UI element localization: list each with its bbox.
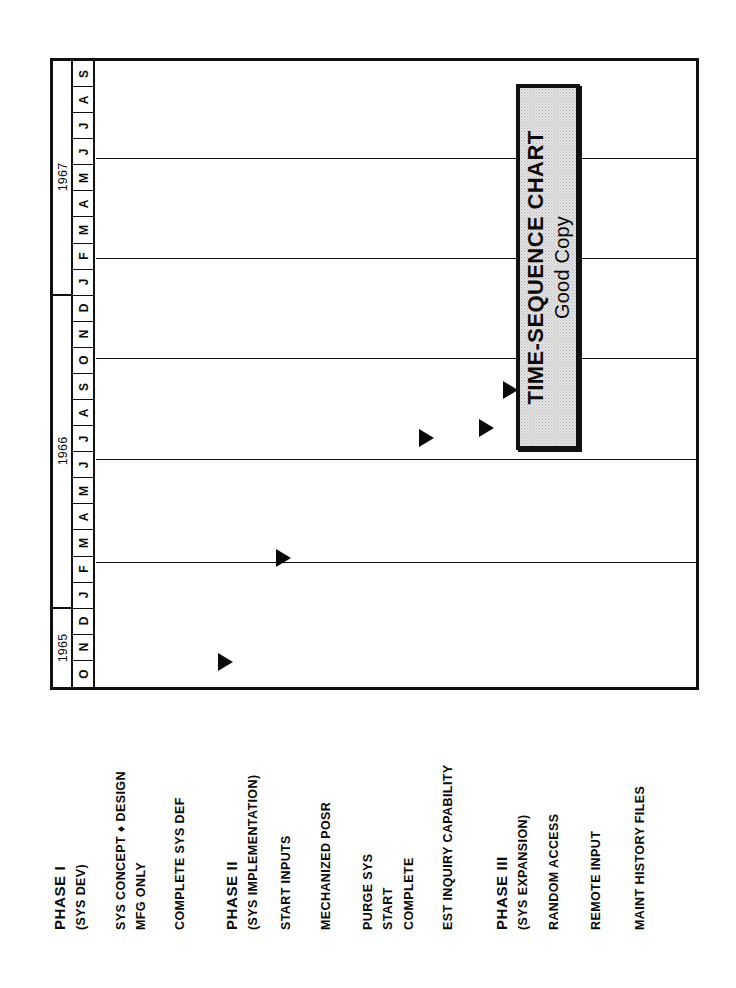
month-cell: N xyxy=(73,635,95,661)
task-label-sys-concept-design: SYS CONCEPT ♦ DESIGN xyxy=(114,771,128,930)
task-label-complete: COMPLETE xyxy=(402,857,416,930)
month-label: M xyxy=(77,173,91,183)
month-cell: S xyxy=(73,374,95,400)
month-label: J xyxy=(77,122,91,129)
month-label: F xyxy=(77,565,91,572)
month-cell: F xyxy=(73,557,95,583)
year-cell-1967: 1967 xyxy=(53,61,73,296)
year-label: 1967 xyxy=(56,163,70,192)
month-label: M xyxy=(77,225,91,235)
year-label: 1966 xyxy=(56,437,70,466)
month-label: N xyxy=(77,330,91,339)
row-separator-line xyxy=(96,562,697,563)
month-label: D xyxy=(77,617,91,626)
month-cell: A xyxy=(73,191,95,217)
month-cell: M xyxy=(73,165,95,191)
month-label: F xyxy=(77,252,91,259)
month-cell: O xyxy=(73,661,95,687)
chart-title: TIME-SEQUENCE CHART xyxy=(523,130,549,404)
task-label-random-access: RANDOM ACCESS xyxy=(547,813,561,930)
milestone-mechanized-posr-marker xyxy=(479,419,494,437)
task-label-phase-iii: PHASE III xyxy=(493,856,510,930)
month-cell: N xyxy=(73,322,95,348)
month-cell: J xyxy=(73,139,95,165)
month-label: D xyxy=(77,304,91,313)
row-separator-line xyxy=(96,459,697,460)
month-label: O xyxy=(77,669,91,678)
month-cell: A xyxy=(73,87,95,113)
task-label-phase-i: PHASE I xyxy=(51,866,68,930)
task-label-est-inquiry-capability: EST INQUIRY CAPABILITY xyxy=(441,764,455,930)
month-cell: A xyxy=(73,400,95,426)
month-label: J xyxy=(77,461,91,468)
year-cell-1966: 1966 xyxy=(53,296,73,609)
month-cell: M xyxy=(73,218,95,244)
month-axis: SAJJMAMFJDNOSAJJMAMFJDNO xyxy=(73,61,95,687)
year-label: 1965 xyxy=(56,634,70,663)
month-label: J xyxy=(77,279,91,286)
row-separator-line xyxy=(96,158,697,159)
year-axis: 196719661965 xyxy=(53,61,73,687)
task-label-start: START xyxy=(381,887,395,930)
month-label: O xyxy=(77,356,91,365)
month-cell: J xyxy=(73,426,95,452)
task-label-start-inputs: START INPUTS xyxy=(279,835,293,930)
month-cell: S xyxy=(73,61,95,87)
task-label-sys-implementation: (SYS IMPLEMENTATION) xyxy=(246,775,260,930)
plot-area xyxy=(96,61,697,687)
month-cell: J xyxy=(73,583,95,609)
month-label: J xyxy=(77,592,91,599)
chart-title-plate: TIME-SEQUENCE CHART Good Copy xyxy=(516,84,580,450)
task-label-sys-expansion: (SYS EXPANSION) xyxy=(516,814,530,930)
row-separator-line xyxy=(96,358,697,359)
month-label: J xyxy=(77,435,91,442)
month-label: N xyxy=(77,643,91,652)
month-cell: J xyxy=(73,270,95,296)
task-label-mfg-only: MFG ONLY xyxy=(134,862,148,930)
month-cell: J xyxy=(73,113,95,139)
month-label: M xyxy=(77,538,91,548)
task-label-maint-history-files: MAINT HISTORY FILES xyxy=(633,786,647,930)
year-cell-1965: 1965 xyxy=(53,609,73,687)
month-label: S xyxy=(77,70,91,78)
milestone-start-inputs-marker xyxy=(419,429,434,447)
month-label: A xyxy=(77,513,91,522)
month-label: A xyxy=(77,200,91,209)
month-cell: M xyxy=(73,478,95,504)
chart-subtitle: Good Copy xyxy=(551,216,574,319)
month-label: S xyxy=(77,383,91,391)
task-label-phase-ii: PHASE II xyxy=(223,861,240,930)
month-label: A xyxy=(77,95,91,104)
month-cell: A xyxy=(73,504,95,530)
task-label-purge-sys: PURGE SYS xyxy=(361,853,375,930)
task-label-complete-sys-def: COMPLETE SYS DEF xyxy=(173,797,187,930)
month-cell: M xyxy=(73,531,95,557)
month-label: J xyxy=(77,148,91,155)
month-cell: D xyxy=(73,296,95,322)
month-cell: J xyxy=(73,452,95,478)
task-label-sys-dev: (SYS DEV) xyxy=(74,864,88,930)
milestone-sys-concept-design-marker xyxy=(218,653,233,671)
task-label-remote-input: REMOTE INPUT xyxy=(589,831,603,930)
task-label-mechanized-posr: MECHANIZED POSR xyxy=(319,802,333,930)
month-label: A xyxy=(77,408,91,417)
time-sequence-chart: 196719661965 SAJJMAMFJDNOSAJJMAMFJDNO xyxy=(50,58,699,690)
row-separator-line xyxy=(96,258,697,259)
milestone-complete-sys-def-marker xyxy=(276,549,291,567)
month-cell: F xyxy=(73,244,95,270)
month-cell: D xyxy=(73,609,95,635)
task-label-band: PHASE I(SYS DEV)SYS CONCEPT ♦ DESIGNMFG … xyxy=(50,700,699,930)
month-label: M xyxy=(77,486,91,496)
month-cell: O xyxy=(73,348,95,374)
